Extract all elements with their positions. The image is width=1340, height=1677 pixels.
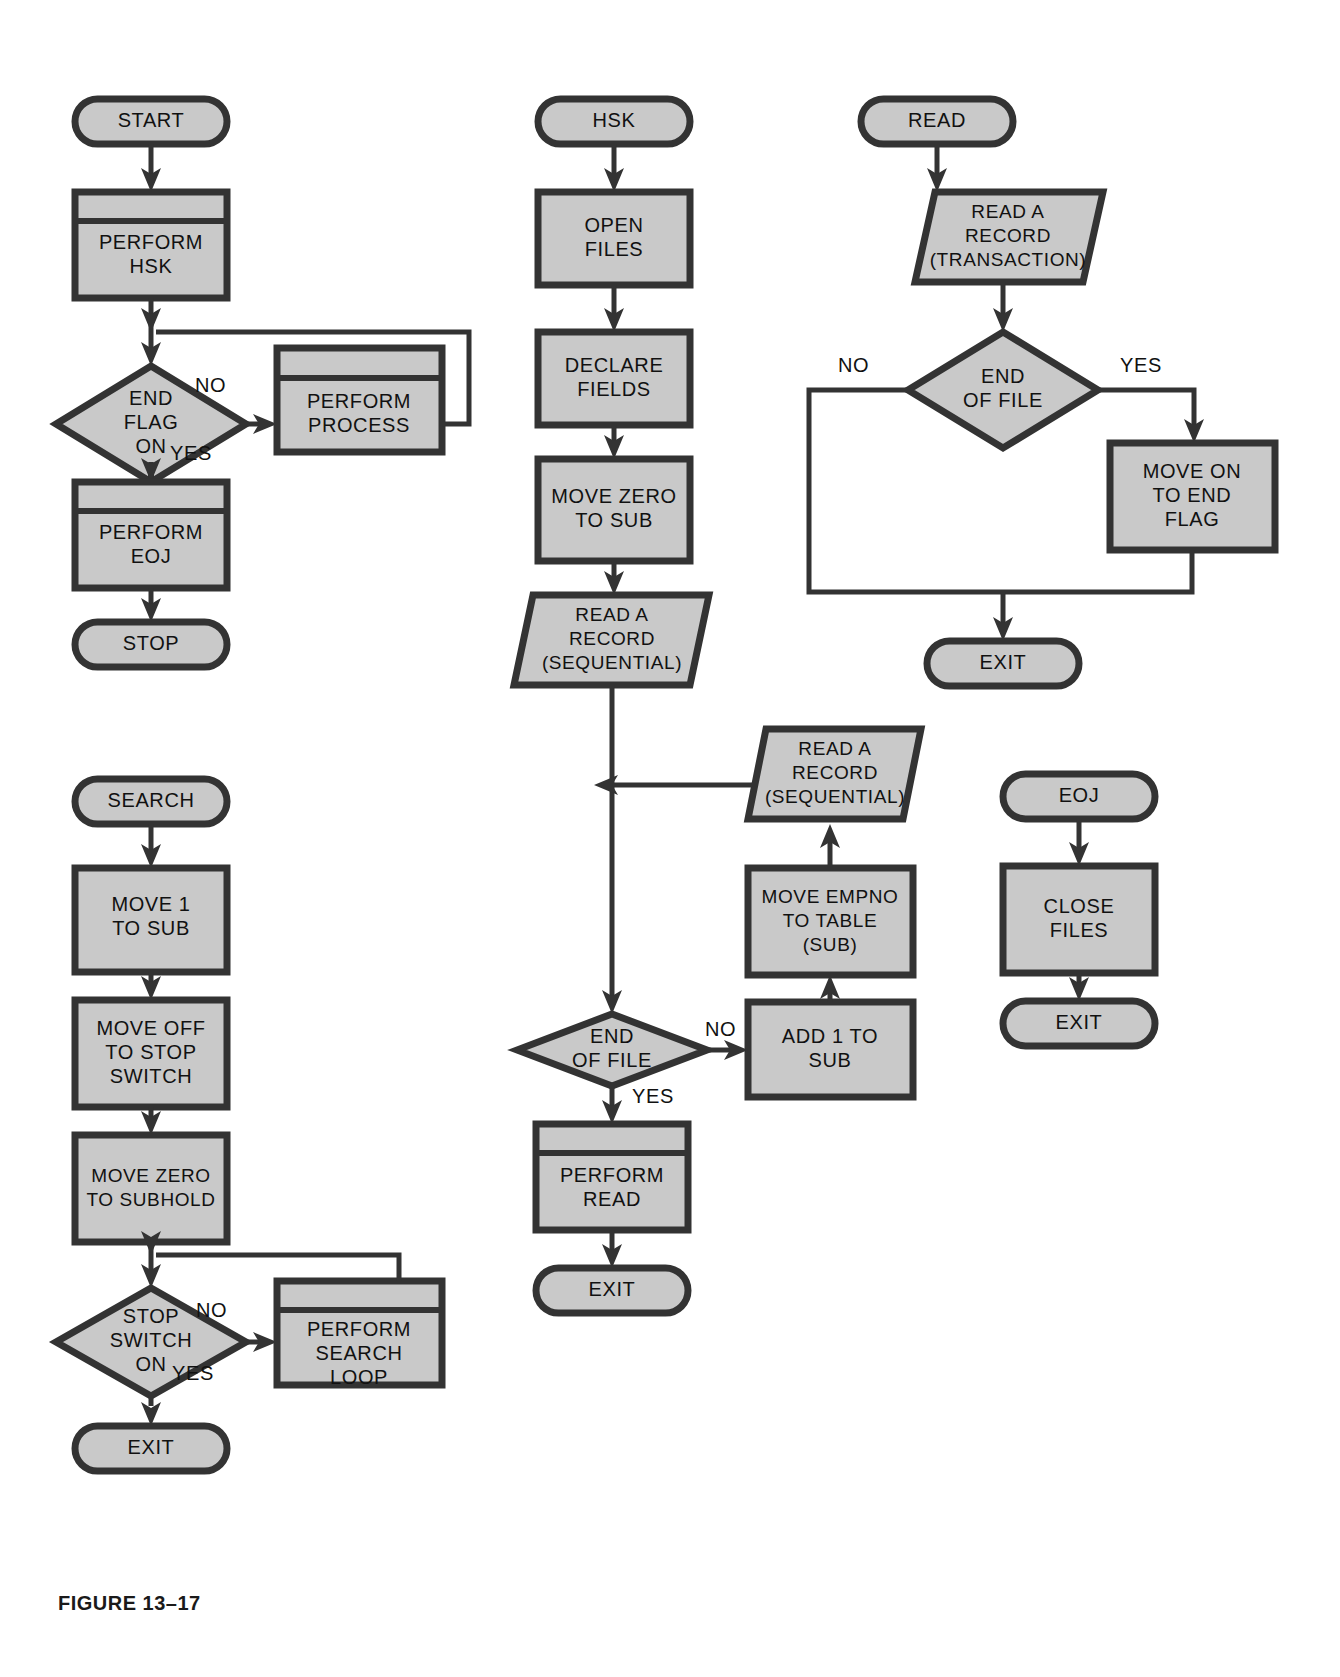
node-hsk-exit-label: EXIT <box>589 1278 636 1300</box>
node-close-files-label-2: FILES <box>1050 919 1109 941</box>
node-stop-label: STOP <box>123 632 180 654</box>
edge-perform-read-to-exit <box>602 1230 622 1268</box>
node-read-label: READ <box>908 109 966 131</box>
edge-label-yes: YES <box>170 442 212 464</box>
node-end-flag-on-label-1: END <box>129 387 173 409</box>
node-search-exit[interactable]: EXIT <box>75 1426 227 1471</box>
node-read-record-sequential-1[interactable]: READ A RECORD (SEQUENTIAL) <box>514 595 709 685</box>
node-stop[interactable]: STOP <box>75 622 227 667</box>
edge-read-spine-to-exit <box>993 592 1013 641</box>
node-move-empno-to-table[interactable]: MOVE EMPNO TO TABLE (SUB) <box>748 868 913 975</box>
node-read-record-transaction[interactable]: READ A RECORD (TRANSACTION) <box>915 192 1103 282</box>
node-perform-hsk[interactable]: PERFORM HSK <box>75 192 227 298</box>
node-read-record-sequential-2-label-3: (SEQUENTIAL) <box>765 786 905 807</box>
node-perform-read-label-2: READ <box>583 1188 641 1210</box>
edge-label-no: NO <box>838 354 869 376</box>
node-stop-switch-on-label-1: STOP <box>123 1305 180 1327</box>
node-read-record-sequential-2[interactable]: READ A RECORD (SEQUENTIAL) <box>748 729 921 819</box>
node-close-files[interactable]: CLOSE FILES <box>1003 866 1155 973</box>
node-perform-eoj-label-1: PERFORM <box>99 521 203 543</box>
node-add-1-to-sub-label-1: ADD 1 TO <box>782 1025 878 1047</box>
chart-read-routine: READ READ A RECORD (TRANSACTION) END OF … <box>809 99 1275 686</box>
node-perform-search-loop-label-3: LOOP <box>330 1366 388 1388</box>
node-perform-read[interactable]: PERFORM READ <box>536 1124 688 1230</box>
node-eoj-exit-label: EXIT <box>1056 1011 1103 1033</box>
edge-label-yes: YES <box>1120 354 1162 376</box>
node-move-1-to-sub-label-2: TO SUB <box>112 917 190 939</box>
node-eoj-exit[interactable]: EXIT <box>1003 1001 1155 1046</box>
node-move-off-label-2: TO STOP <box>105 1041 196 1063</box>
node-declare-fields[interactable]: DECLARE FIELDS <box>538 332 690 425</box>
node-start[interactable]: START <box>75 99 227 144</box>
node-move-off-label-1: MOVE OFF <box>96 1017 205 1039</box>
node-search[interactable]: SEARCH <box>75 779 227 824</box>
edge-add-1-to-move-empno <box>820 975 840 1002</box>
node-move-on-to-end-flag[interactable]: MOVE ON TO END FLAG <box>1110 443 1275 550</box>
node-move-zero-subhold-label-2: TO SUBHOLD <box>86 1189 215 1210</box>
node-perform-eoj[interactable]: PERFORM EOJ <box>75 482 227 588</box>
node-read-exit[interactable]: EXIT <box>927 641 1079 686</box>
node-declare-fields-label-2: FIELDS <box>577 378 651 400</box>
chart-hsk-routine: HSK OPEN FILES DECLARE FIELDS <box>514 99 921 1313</box>
node-search-label: SEARCH <box>108 789 195 811</box>
edge-perform-search-loop-loopback <box>156 1255 399 1281</box>
node-perform-search-loop-label-1: PERFORM <box>307 1318 411 1340</box>
node-add-1-to-sub-label-2: SUB <box>809 1049 852 1071</box>
node-move-zero-to-subhold[interactable]: MOVE ZERO TO SUBHOLD <box>75 1135 227 1242</box>
node-read-record-sequential-1-label-1: READ A <box>575 604 648 625</box>
node-move-on-to-end-flag-label-3: FLAG <box>1165 508 1220 530</box>
edge-label-no: NO <box>195 374 226 396</box>
node-hsk[interactable]: HSK <box>538 99 690 144</box>
node-end-flag-on-label-3: ON <box>135 435 166 457</box>
node-read-record-transaction-label-1: READ A <box>971 201 1044 222</box>
chart-main-program: START PERFORM HSK END FLAG ON <box>56 99 469 667</box>
node-perform-search-loop[interactable]: PERFORM SEARCH LOOP <box>277 1281 442 1388</box>
node-read-record-sequential-1-label-3: (SEQUENTIAL) <box>542 652 682 673</box>
figure-root: START PERFORM HSK END FLAG ON <box>0 0 1340 1677</box>
edge-start-to-perform-hsk <box>141 144 161 192</box>
edge-read-record-1-to-end-of-file <box>594 685 622 1014</box>
edge-perform-eoj-to-stop <box>141 588 161 622</box>
edge-move-off-to-move-zero-subhold <box>141 1107 161 1135</box>
node-perform-process[interactable]: PERFORM PROCESS <box>277 348 442 452</box>
edge-move-1-to-move-off <box>141 972 161 1000</box>
node-move-1-to-sub-label-1: MOVE 1 <box>111 893 190 915</box>
node-read-end-of-file-label-1: END <box>981 365 1025 387</box>
node-read[interactable]: READ <box>861 99 1013 144</box>
node-move-empno-label-1: MOVE EMPNO <box>762 886 899 907</box>
node-perform-search-loop-label-2: SEARCH <box>316 1342 403 1364</box>
node-add-1-to-sub[interactable]: ADD 1 TO SUB <box>748 1002 913 1097</box>
node-move-on-to-end-flag-label-1: MOVE ON <box>1143 460 1242 482</box>
node-perform-process-label-2: PROCESS <box>308 414 410 436</box>
node-move-off-to-stop-switch[interactable]: MOVE OFF TO STOP SWITCH <box>75 1000 227 1107</box>
node-read-record-transaction-label-3: (TRANSACTION) <box>930 249 1087 270</box>
node-perform-read-label-1: PERFORM <box>560 1164 664 1186</box>
node-perform-eoj-label-2: EOJ <box>131 545 172 567</box>
flowchart-diagram: START PERFORM HSK END FLAG ON <box>0 0 1340 1677</box>
node-move-1-to-sub[interactable]: MOVE 1 TO SUB <box>75 868 227 972</box>
edge-label-yes: YES <box>172 1362 214 1384</box>
node-perform-hsk-label-1: PERFORM <box>99 231 203 253</box>
edge-close-files-to-exit <box>1069 973 1089 1001</box>
node-move-empno-label-3: (SUB) <box>803 934 858 955</box>
figure-caption: FIGURE 13–17 <box>58 1592 201 1615</box>
node-eoj[interactable]: EOJ <box>1003 774 1155 819</box>
node-move-zero-to-sub-label-1: MOVE ZERO <box>551 485 676 507</box>
node-read-record-transaction-label-2: RECORD <box>965 225 1051 246</box>
node-open-files[interactable]: OPEN FILES <box>538 192 690 285</box>
node-hsk-label: HSK <box>593 109 636 131</box>
node-move-zero-to-sub[interactable]: MOVE ZERO TO SUB <box>538 459 690 561</box>
node-search-exit-label: EXIT <box>128 1436 175 1458</box>
node-eoj-label: EOJ <box>1059 784 1100 806</box>
node-open-files-label-1: OPEN <box>584 214 643 236</box>
node-hsk-end-of-file-label-2: OF FILE <box>572 1049 652 1071</box>
chart-search-routine: SEARCH MOVE 1 TO SUB MOVE OFF TO STOP SW… <box>56 779 442 1471</box>
node-read-record-sequential-2-label-2: RECORD <box>792 762 878 783</box>
node-move-zero-to-sub-label-2: TO SUB <box>575 509 653 531</box>
node-move-on-to-end-flag-label-2: TO END <box>1153 484 1232 506</box>
node-hsk-exit[interactable]: EXIT <box>536 1268 688 1313</box>
node-end-flag-on-label-2: FLAG <box>124 411 179 433</box>
node-stop-switch-on-label-3: ON <box>135 1353 166 1375</box>
node-hsk-end-of-file[interactable]: END OF FILE <box>517 1014 707 1086</box>
node-read-end-of-file[interactable]: END OF FILE <box>908 332 1098 448</box>
